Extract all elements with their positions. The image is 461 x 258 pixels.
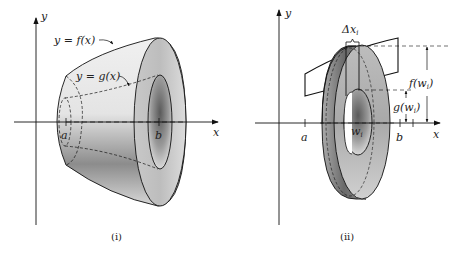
- x-axis-label: x: [433, 128, 440, 141]
- outer-radius-label: f(wi): [408, 77, 433, 91]
- panel-ii-caption: (ii): [340, 231, 354, 242]
- inner-radius-label: g(wi): [393, 101, 420, 115]
- tick-label-a: a: [61, 129, 68, 142]
- figure-canvas: y x a b y = f(x) y = g(x) (i) y: [0, 0, 461, 258]
- panel-i: y x a b y = f(x) y = g(x) (i): [14, 10, 220, 242]
- x-axis-label: x: [213, 126, 220, 139]
- tick-label-b: b: [396, 131, 403, 144]
- curve-label-g: y = g(x): [75, 70, 120, 83]
- y-axis-label: y: [40, 10, 48, 23]
- curve-label-f: y = f(x): [53, 34, 95, 47]
- tick-label-a: a: [301, 131, 308, 144]
- y-axis-label: y: [284, 7, 292, 20]
- delta-x-label: Δxi: [341, 23, 358, 37]
- panel-i-caption: (i): [111, 231, 122, 242]
- tick-label-b: b: [155, 129, 162, 142]
- panel-ii: y x a wi b Δxi f(wi): [255, 7, 450, 242]
- delta-x-brace: [346, 39, 359, 46]
